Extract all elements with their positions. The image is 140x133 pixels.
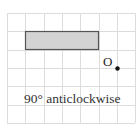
shaded-rectangle xyxy=(26,32,99,50)
rotation-caption: 90° anticlockwise xyxy=(24,91,120,106)
grid-diagram xyxy=(0,0,140,133)
point-o-label: O xyxy=(103,55,112,68)
centre-point-o xyxy=(115,66,119,70)
